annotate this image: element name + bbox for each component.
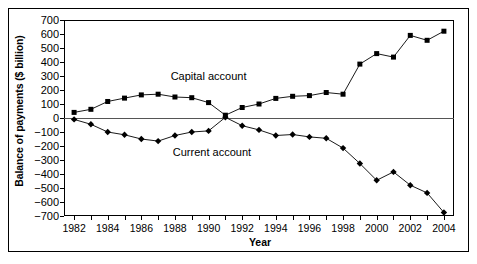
data-point-marker [256,127,262,133]
data-point-marker [172,132,178,138]
y-tick-label: −500 [34,182,59,194]
data-point-marker [105,129,111,135]
data-point-marker [273,132,279,138]
y-tick-label: 100 [41,98,59,110]
series-capital-account [72,29,447,118]
series-current-account [71,114,447,216]
data-point-marker [189,95,194,100]
x-tick-label: 1996 [298,222,321,234]
x-tick-mark [158,216,159,220]
x-tick-mark [259,216,260,220]
data-point-marker [155,138,161,144]
x-tick-mark [293,216,294,220]
y-tick-label: 700 [41,14,59,26]
data-point-marker [206,100,211,105]
y-tick-label: 0 [53,112,59,124]
x-tick-mark [360,216,361,220]
plot-area: 7006005004003002001000−100−200−300−400−5… [64,20,454,216]
y-tick-label: 600 [41,28,59,40]
y-axis-title: Balance of payments ($ billion) [13,11,25,211]
x-tick-label: 1986 [130,222,153,234]
x-tick-mark [326,216,327,220]
y-tick-label: −700 [34,210,59,222]
data-point-marker [172,95,177,100]
y-tick-label: 200 [41,84,59,96]
x-tick-mark [192,216,193,220]
x-tick-mark [74,216,75,220]
data-point-marker [138,136,144,142]
x-tick-label: 1990 [197,222,220,234]
x-tick-mark [175,216,176,220]
y-tick-mark [60,216,64,217]
x-tick-label: 1994 [264,222,287,234]
x-tick-label: 1982 [62,222,85,234]
y-tick-label: −200 [34,140,59,152]
series-annotation-current-account: Current account [173,146,251,158]
x-tick-label: 2002 [399,222,422,234]
x-tick-mark [108,216,109,220]
data-point-marker [307,93,312,98]
data-point-marker [105,99,110,104]
data-point-marker [240,105,245,110]
series-layer [64,20,454,216]
y-tick-label: −300 [34,154,59,166]
y-tick-label: 500 [41,42,59,54]
data-point-marker [88,107,93,112]
data-point-marker [257,102,262,107]
chart-figure: Balance of payments ($ billion) 70060050… [0,0,477,264]
data-point-marker [324,90,329,95]
data-point-marker [122,96,127,101]
data-point-marker [408,33,413,38]
y-tick-label: −600 [34,196,59,208]
data-point-marker [88,121,94,127]
data-point-marker [441,29,446,34]
data-point-marker [391,55,396,60]
x-tick-label: 2000 [365,222,388,234]
data-point-marker [121,132,127,138]
x-tick-mark [209,216,210,220]
data-point-marker [71,116,77,122]
series-annotation-capital-account: Capital account [171,70,247,82]
x-tick-mark [393,216,394,220]
data-point-marker [290,94,295,99]
data-point-marker [139,92,144,97]
data-point-marker [374,51,379,56]
y-tick-label: 300 [41,70,59,82]
data-point-marker [425,38,430,43]
data-point-marker [289,131,295,137]
data-point-marker [156,92,161,97]
data-point-marker [341,92,346,97]
data-point-marker [306,134,312,140]
x-tick-mark [276,216,277,220]
data-point-marker [323,135,329,141]
x-tick-mark [225,216,226,220]
data-point-marker [357,62,362,67]
data-point-marker [239,123,245,129]
x-tick-mark [343,216,344,220]
data-point-marker [72,110,77,115]
x-axis-title: Year [60,236,460,248]
x-tick-mark [242,216,243,220]
data-point-marker [189,129,195,135]
y-tick-label: −100 [34,126,59,138]
x-tick-mark [410,216,411,220]
x-tick-mark [427,216,428,220]
x-tick-label: 2004 [432,222,455,234]
x-tick-label: 1998 [331,222,354,234]
x-tick-mark [377,216,378,220]
data-point-marker [273,96,278,101]
x-tick-label: 1988 [163,222,186,234]
x-tick-mark [91,216,92,220]
x-tick-mark [141,216,142,220]
y-tick-label: 400 [41,56,59,68]
x-tick-label: 1984 [96,222,119,234]
x-tick-mark [125,216,126,220]
y-tick-label: −400 [34,168,59,180]
x-tick-mark [309,216,310,220]
x-tick-label: 1992 [231,222,254,234]
x-tick-mark [444,216,445,220]
